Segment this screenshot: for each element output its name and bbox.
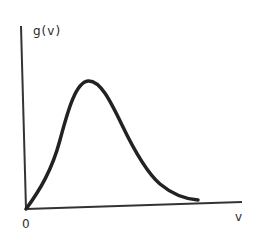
x-axis [26,202,242,209]
y-axis [21,26,26,209]
x-axis-label: v [235,211,243,223]
axes [21,26,242,209]
origin-label: 0 [22,218,31,230]
y-axis-label: g(v) [33,25,61,37]
distribution-curve [26,81,198,209]
